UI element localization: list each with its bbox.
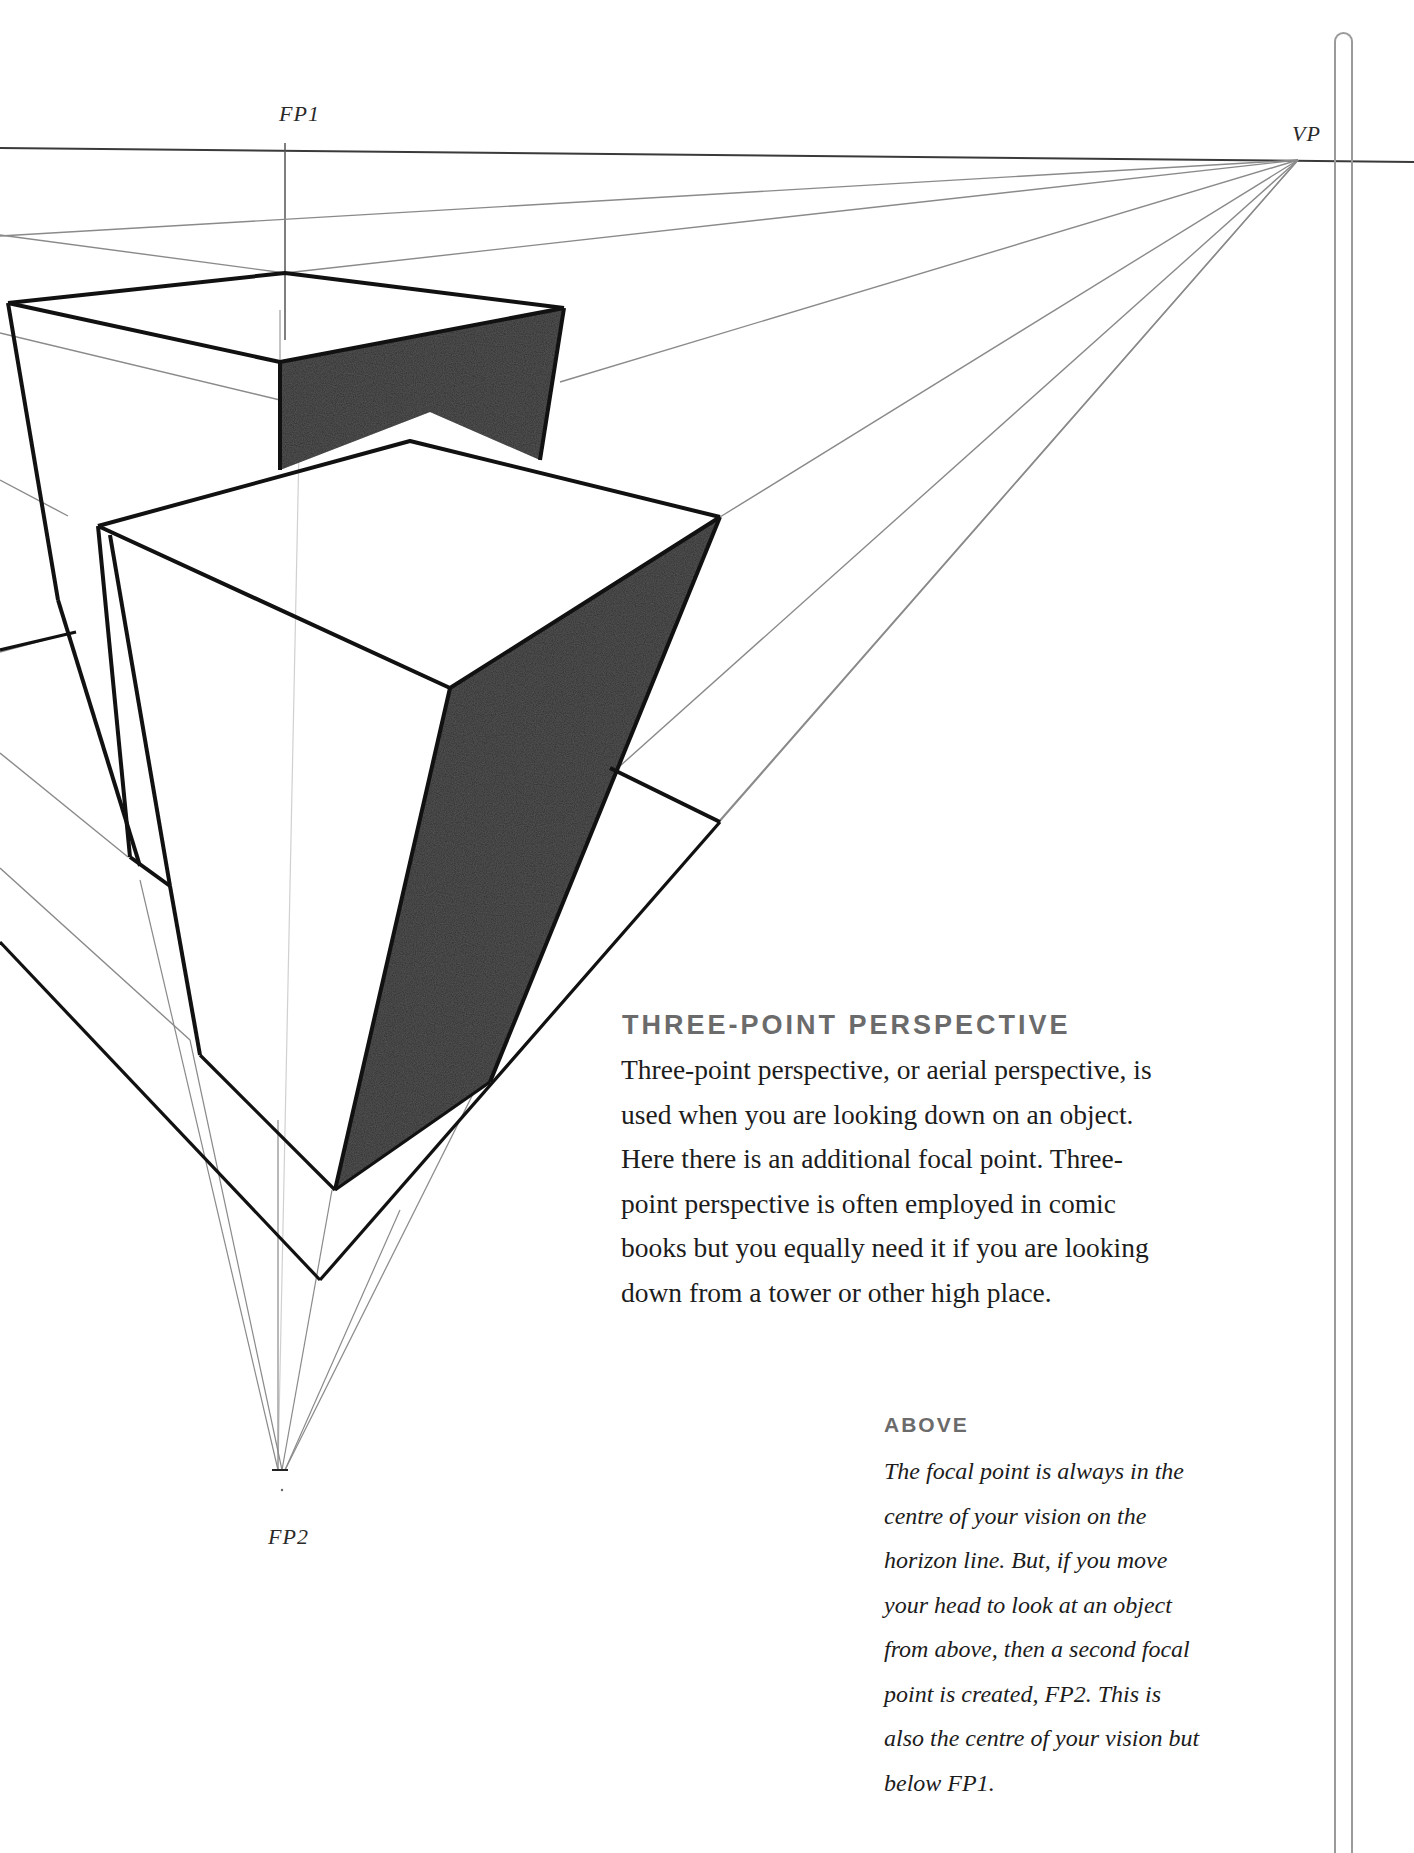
caption-line: below FP1.	[884, 1761, 1264, 1806]
caption-line: The focal point is always in the	[884, 1449, 1264, 1494]
caption-line: also the centre of your vision but	[884, 1716, 1264, 1761]
horizon-line	[0, 148, 1414, 162]
body-line: Here there is an additional focal point.…	[621, 1137, 1241, 1182]
caption-line: point is created, FP2. This is	[884, 1672, 1264, 1717]
caption-heading: ABOVE	[884, 1413, 969, 1437]
caption-line: centre of your vision on the	[884, 1494, 1264, 1539]
body-line: books but you equally need it if you are…	[621, 1226, 1241, 1271]
vp-label: VP	[1292, 121, 1321, 147]
body-line: used when you are looking down on an obj…	[621, 1093, 1241, 1138]
body-line: point perspective is often employed in c…	[621, 1182, 1241, 1227]
caption-paragraph: The focal point is always in the centre …	[884, 1449, 1264, 1805]
fp2-label: FP2	[268, 1524, 309, 1550]
caption-line: horizon line. But, if you move	[884, 1538, 1264, 1583]
book-page: FP1 VP FP2 THREE-POINT PERSPECTIVE Three…	[0, 0, 1414, 1853]
section-heading: THREE-POINT PERSPECTIVE	[622, 1010, 1071, 1041]
fp1-label: FP1	[279, 101, 320, 127]
caption-line: from above, then a second focal	[884, 1627, 1264, 1672]
body-paragraph: Three-point perspective, or aerial persp…	[621, 1048, 1241, 1315]
caption-line: your head to look at an object	[884, 1583, 1264, 1628]
body-line: down from a tower or other high place.	[621, 1271, 1241, 1316]
page-margin-rule	[1334, 32, 1353, 1853]
body-line: Three-point perspective, or aerial persp…	[621, 1048, 1241, 1093]
